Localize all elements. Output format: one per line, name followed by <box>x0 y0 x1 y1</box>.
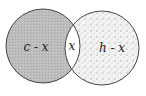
venn-diagram: c - x x h - x <box>0 0 146 96</box>
right-only-label: h - x <box>99 41 125 55</box>
intersection-label: x <box>69 39 76 53</box>
left-only-label: c - x <box>23 40 48 54</box>
